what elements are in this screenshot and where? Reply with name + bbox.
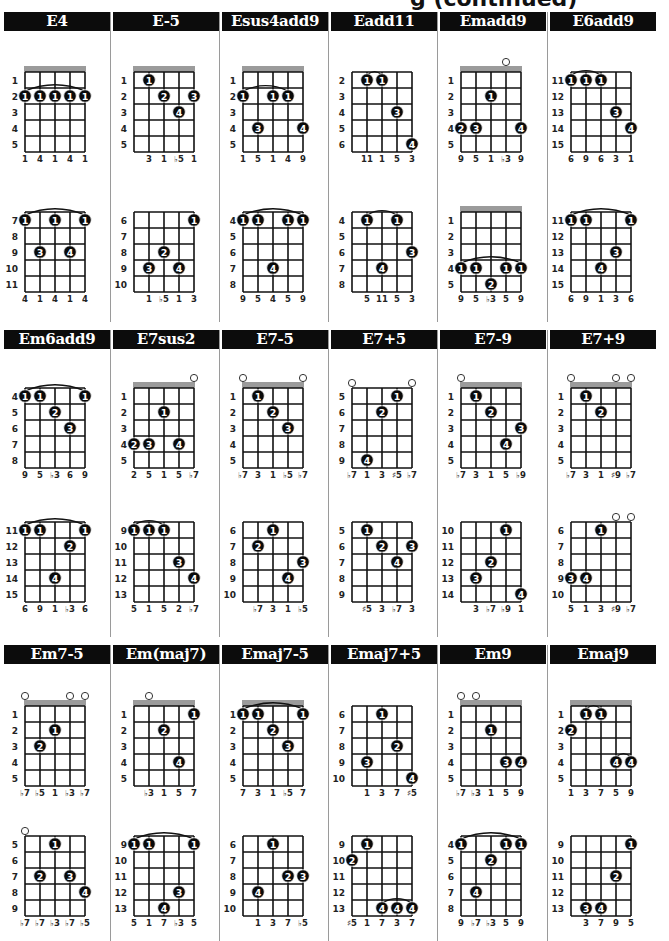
chord-name: Esus4add9	[222, 12, 328, 31]
interval-label: 4	[67, 154, 73, 164]
fret-number: 1	[12, 76, 18, 86]
fret-number: 4	[448, 124, 454, 134]
fret-number: 6	[558, 526, 564, 536]
finger-number: 1	[628, 839, 635, 850]
finger-number: 4	[409, 139, 416, 150]
finger-number: 3	[473, 123, 480, 134]
fret-number: 5	[448, 456, 454, 466]
finger-number: 1	[379, 709, 386, 720]
interval-label: 9	[518, 294, 524, 304]
fret-number: 5	[339, 232, 345, 242]
finger-number: 2	[255, 541, 262, 552]
interval-label: 9	[613, 918, 619, 928]
fret-number: 10	[114, 542, 127, 552]
interval-label: ♭7	[20, 918, 30, 928]
interval-label: 1	[583, 604, 589, 614]
fret-number: 4	[558, 440, 564, 450]
interval-label: 7	[240, 788, 246, 798]
finger-number: 3	[37, 247, 44, 258]
fret-number: 1	[230, 392, 236, 402]
chord-diagram: 678910134513♯9♭7	[549, 508, 659, 628]
interval-label: ♭7	[189, 470, 199, 480]
interval-label: 5	[285, 294, 291, 304]
fret-number: 6	[230, 248, 236, 258]
finger-number: 1	[458, 263, 465, 274]
fret-number: 6	[230, 526, 236, 536]
interval-label: 3	[379, 788, 385, 798]
fret-number: 7	[230, 856, 236, 866]
fret-number: 4	[230, 124, 236, 134]
finger-number: 1	[518, 839, 525, 850]
interval-label: ♭7	[238, 470, 248, 480]
fret-number: 1	[448, 216, 454, 226]
page-title: g (continued)	[410, 0, 577, 11]
finger-number: 4	[176, 263, 183, 274]
fret-number: 5	[448, 856, 454, 866]
chord-diagram: 123451234♭7315♭9	[439, 374, 549, 494]
fret-number: 12	[441, 558, 454, 568]
open-string-icon	[145, 692, 152, 699]
finger-number: 4	[518, 757, 525, 768]
interval-label: 3	[409, 294, 415, 304]
finger-number: 2	[613, 871, 620, 882]
interval-label: 7	[409, 918, 415, 928]
interval-label: 3	[270, 918, 276, 928]
interval-label: 7	[379, 918, 385, 928]
fret-number: 8	[558, 558, 564, 568]
fret-number: 9	[339, 840, 345, 850]
finger-number: 2	[37, 741, 44, 752]
chord-diagram: 45678111249♭7♭359	[439, 822, 549, 941]
interval-label: 1	[52, 788, 58, 798]
fret-number: 5	[448, 774, 454, 784]
interval-label: 1	[488, 470, 494, 480]
chord-diagram: 12345134♭7♭3159	[439, 692, 549, 812]
chord-name: Emaj9	[550, 645, 656, 664]
interval-label: 7	[300, 788, 306, 798]
fret-number: 12	[5, 542, 18, 552]
interval-label: 3	[613, 154, 619, 164]
fret-number: 5	[230, 140, 236, 150]
interval-label: 9	[518, 788, 524, 798]
interval-label: ♭7	[626, 604, 636, 614]
finger-number: 4	[394, 903, 401, 914]
finger-number: 3	[67, 871, 74, 882]
interval-label: 9	[518, 154, 524, 164]
fret-number: 7	[339, 424, 345, 434]
finger-number: 1	[285, 215, 292, 226]
chord-diagram: 11121314151113469136	[549, 198, 659, 318]
finger-number: 4	[598, 903, 605, 914]
interval-label: 5	[131, 918, 137, 928]
nut	[570, 382, 632, 388]
fret-number: 13	[441, 574, 454, 584]
finger-number: 2	[161, 247, 168, 258]
open-string-icon	[21, 692, 28, 699]
interval-label: 4	[52, 294, 58, 304]
interval-label: 7	[161, 918, 167, 928]
interval-label: 6	[568, 154, 574, 164]
finger-number: 1	[488, 91, 495, 102]
open-string-icon	[627, 374, 634, 381]
fret-number: 5	[339, 392, 345, 402]
interval-label: 3	[270, 604, 276, 614]
fret-number: 3	[121, 742, 127, 752]
fret-number: 8	[12, 456, 18, 466]
fret-number: 10	[223, 904, 236, 914]
fret-number: 5	[230, 232, 236, 242]
chord-diagram: 23456113411153	[330, 58, 440, 178]
fret-number: 10	[114, 856, 127, 866]
interval-label: 9	[300, 294, 306, 304]
interval-label: ♭5	[298, 604, 308, 614]
interval-label: 1	[161, 470, 167, 480]
fret-number: 5	[12, 140, 18, 150]
interval-label: 3	[583, 918, 589, 928]
finger-number: 1	[82, 215, 89, 226]
open-string-icon	[408, 379, 415, 386]
interval-label: ♭9	[501, 604, 511, 614]
interval-label: 5	[628, 918, 634, 928]
fret-number: 9	[558, 840, 564, 850]
fret-number: 5	[121, 140, 127, 150]
nut	[242, 66, 304, 72]
interval-label: 1	[240, 154, 246, 164]
fret-number: 9	[230, 574, 236, 584]
fret-number: 13	[551, 904, 564, 914]
